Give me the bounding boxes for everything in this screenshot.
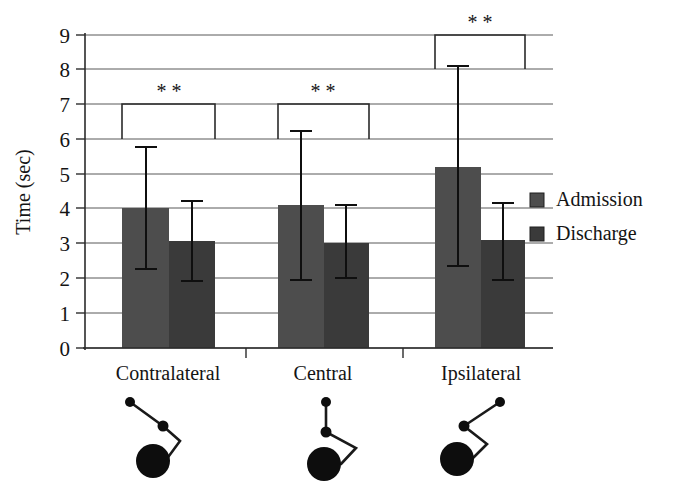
y-tick-label: 2 xyxy=(60,267,71,291)
category-label-central: Central xyxy=(294,362,353,384)
legend-swatch-discharge xyxy=(530,227,544,241)
y-axis-title: Time (sec) xyxy=(12,149,35,234)
contralateral-limb-diagram xyxy=(125,397,180,478)
significance-bracket-contralateral xyxy=(122,104,215,139)
y-tick-label: 8 xyxy=(60,58,71,82)
chart-figure: 0 1 2 3 4 5 6 7 8 9 Time (sec) xyxy=(0,0,681,498)
legend-label-admission: Admission xyxy=(556,188,643,210)
central-limb-diagram xyxy=(307,397,356,481)
y-tick-label: 1 xyxy=(60,302,71,326)
significance-bracket-central xyxy=(278,104,369,139)
x-category-labels: Contralateral Central Ipsilateral xyxy=(116,362,522,385)
y-axis xyxy=(76,33,85,350)
bar-group-central: * * xyxy=(278,80,369,348)
y-tick-label: 5 xyxy=(60,163,71,187)
legend-label-discharge: Discharge xyxy=(556,222,637,245)
y-tick-label: 9 xyxy=(60,24,71,48)
legend-swatch-admission xyxy=(530,193,544,207)
y-tick-label: 0 xyxy=(60,337,71,361)
y-tick-label: 4 xyxy=(60,197,71,221)
ipsilateral-limb-diagram xyxy=(440,397,505,476)
x-axis xyxy=(83,348,553,358)
category-label-contralateral: Contralateral xyxy=(116,362,221,384)
y-tick-label: 7 xyxy=(60,93,71,117)
significance-stars-contralateral: * * xyxy=(157,80,182,102)
y-tick-label: 6 xyxy=(60,128,71,152)
bar-chart-svg: 0 1 2 3 4 5 6 7 8 9 Time (sec) xyxy=(0,0,681,498)
y-tick-label: 3 xyxy=(60,232,71,256)
significance-stars-central: * * xyxy=(311,80,336,102)
significance-stars-ipsilateral: * * xyxy=(468,11,493,33)
category-label-ipsilateral: Ipsilateral xyxy=(441,362,521,385)
y-tick-labels: 0 1 2 3 4 5 6 7 8 9 xyxy=(60,24,71,361)
bar-group-ipsilateral: * * xyxy=(435,11,525,348)
bar-group-contralateral: * * xyxy=(122,80,215,348)
significance-bracket-ipsilateral xyxy=(435,35,525,69)
chart-legend: Admission Discharge xyxy=(530,188,643,245)
